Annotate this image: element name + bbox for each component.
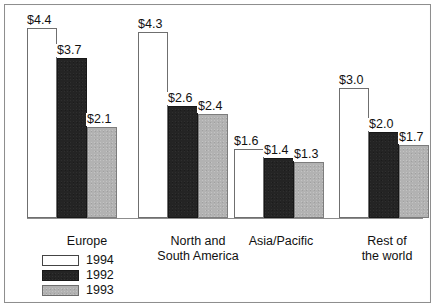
bar-value-label: $2.1	[86, 113, 112, 126]
bar-1994[interactable]: $4.3	[138, 32, 168, 218]
category-label-europe: Europe	[39, 234, 135, 249]
category-axis-line	[27, 218, 423, 219]
figure-canvas: $4.4 $3.7 $2.1 $4.3 $2.6 $2.4	[0, 0, 435, 307]
legend-item-1994[interactable]: 1994	[42, 253, 114, 268]
bar-value-label: $3.7	[56, 44, 82, 57]
legend-swatch-1994	[42, 255, 79, 266]
bar-group: $3.0 $2.0 $1.7	[339, 15, 429, 218]
bar-1994[interactable]: $3.0	[339, 88, 369, 218]
legend: 1994 1992 1993	[42, 253, 114, 298]
legend-swatch-1993	[42, 285, 79, 296]
legend-label-1994: 1994	[86, 254, 114, 267]
legend-label-1992: 1992	[86, 269, 114, 282]
bar-value-label: $1.7	[398, 131, 424, 144]
bar-group: $4.4 $3.7 $2.1	[27, 15, 117, 218]
bar-1992[interactable]: $2.6	[168, 106, 198, 218]
bar-value-label: $1.6	[233, 135, 259, 148]
bar-1993[interactable]: $1.7	[399, 145, 429, 218]
plot-area: $4.4 $3.7 $2.1 $4.3 $2.6 $2.4	[19, 15, 423, 219]
bar-value-label: $1.4	[263, 144, 289, 157]
bar-value-label: $2.4	[197, 100, 223, 113]
legend-item-1992[interactable]: 1992	[42, 268, 114, 283]
bar-value-label: $1.3	[293, 148, 319, 161]
legend-item-1993[interactable]: 1993	[42, 283, 114, 298]
bar-value-label: $4.3	[137, 18, 163, 31]
category-label-asia-pacific: Asia/Pacific	[231, 234, 331, 249]
bar-value-label: $2.0	[368, 118, 394, 131]
bar-1992[interactable]: $3.7	[57, 58, 87, 218]
bar-1992[interactable]: $1.4	[264, 158, 294, 218]
bar-value-label: $4.4	[26, 14, 52, 27]
bar-1993[interactable]: $2.1	[87, 127, 117, 218]
bar-1994[interactable]: $1.6	[234, 149, 264, 218]
bar-value-label: $3.0	[338, 74, 364, 87]
bar-1994[interactable]: $4.4	[27, 28, 57, 218]
figure-frame: $4.4 $3.7 $2.1 $4.3 $2.6 $2.4	[4, 4, 431, 303]
bar-group: $1.6 $1.4 $1.3	[234, 15, 324, 218]
bar-value-label: $2.6	[167, 92, 193, 105]
category-label-rest-of-the-world: Rest of the world	[339, 234, 435, 264]
bar-1992[interactable]: $2.0	[369, 132, 399, 218]
bar-1993[interactable]: $1.3	[294, 162, 324, 218]
bar-group: $4.3 $2.6 $2.4	[138, 15, 228, 218]
legend-label-1993: 1993	[86, 284, 114, 297]
legend-swatch-1992	[42, 270, 79, 281]
bar-1993[interactable]: $2.4	[198, 114, 228, 218]
